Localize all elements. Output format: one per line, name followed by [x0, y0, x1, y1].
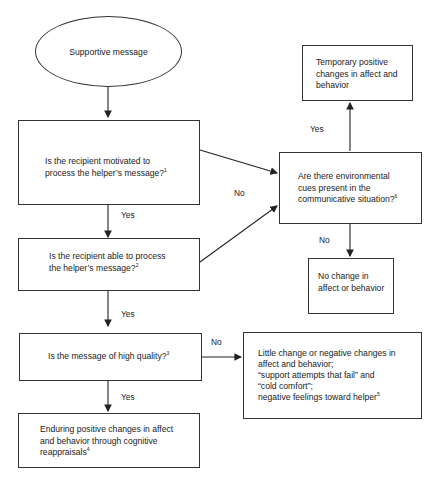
able-yes-label: Yes [121, 309, 135, 319]
little-line4: “cold comfort”; [258, 381, 421, 392]
temp-line3: behavior [316, 80, 412, 92]
quality-line1: Is the message of high quality?3 [48, 351, 201, 363]
little-line2: affect and behavior; [258, 359, 421, 370]
able-decision: Is the recipient able to process the hel… [18, 238, 200, 291]
temporary-outcome: Temporary positive changes in affect and… [302, 45, 413, 101]
enduring-line2: and behavior through cognitive [40, 436, 199, 448]
little-line3: “support attempts that fail” and [258, 370, 421, 381]
enduring-line1: Enduring positive changes in affect [40, 424, 199, 436]
motivated-line2: process the helper’s message?1 [45, 168, 199, 180]
start-label: Supportive message [69, 47, 147, 57]
temp-line1: Temporary positive [316, 57, 412, 69]
able-line2: the helper’s message?2 [49, 263, 199, 275]
nochange-line1: No change in [318, 271, 393, 283]
enduring-line3: reappraisals4 [40, 447, 199, 459]
start-node: Supportive message [35, 16, 182, 87]
motivated-decision: Is the recipient motivated to process th… [18, 120, 200, 205]
env-line1: Are there environmental [298, 171, 421, 183]
little-line5: negative feelings toward helper5 [258, 392, 421, 403]
no-change-outcome: No change in affect or behavior [308, 258, 394, 314]
environmental-decision: Are there environmental cues present in … [279, 152, 422, 224]
env-line2: cues present in the [298, 183, 421, 195]
env-yes-label: Yes [310, 124, 324, 134]
able-line1: Is the recipient able to process [49, 251, 199, 263]
temp-line2: changes in affect and [316, 69, 412, 81]
env-no-label: No [319, 235, 330, 245]
quality-decision: Is the message of high quality?3 [19, 333, 202, 381]
little-change-outcome: Little change or negative changes in aff… [243, 332, 422, 419]
nochange-line2: affect or behavior [318, 283, 393, 295]
motivated-line1: Is the recipient motivated to [45, 156, 199, 168]
quality-yes-label: Yes [121, 392, 135, 402]
enduring-outcome: Enduring positive changes in affect and … [18, 413, 200, 468]
motivated-no-label: No [234, 188, 245, 198]
little-line1: Little change or negative changes in [258, 348, 421, 359]
motivated-yes-label: Yes [121, 210, 135, 220]
quality-no-label: No [211, 337, 222, 347]
env-line3: communicative situation?6 [298, 194, 421, 206]
